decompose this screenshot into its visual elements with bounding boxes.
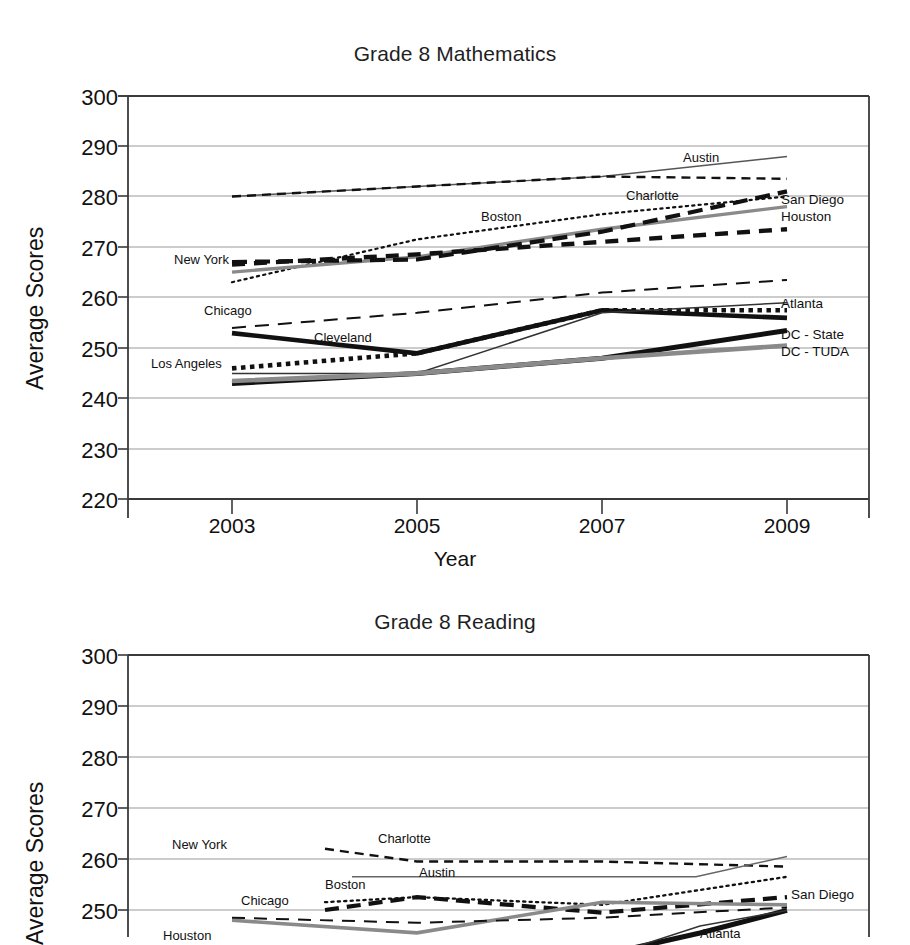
chart1-gridlines: [128, 146, 869, 449]
chart2-label-san-diego: San Diego: [791, 887, 854, 902]
chart1-series-chicago: [232, 280, 787, 328]
chart2-label-boston: Boston: [325, 877, 365, 892]
chart1-label-charlotte: Charlotte: [626, 188, 679, 203]
chart1-plot: [0, 0, 910, 600]
chart2-plot: [0, 600, 910, 937]
chart-grade8-reading: Grade 8 Reading Average Scores 300 290 2…: [0, 600, 910, 937]
chart1-label-boston: Boston: [481, 209, 521, 224]
chart1-label-dc-tuda: DC - TUDA: [781, 344, 849, 359]
chart2-label-new-york: New York: [172, 837, 227, 852]
chart1-label-cleveland: Cleveland: [314, 330, 372, 345]
chart2-label-austin: Austin: [419, 865, 455, 880]
chart2-axis-ticks: [118, 655, 128, 910]
chart1-label-chicago: Chicago: [204, 303, 252, 318]
chart1-series-charlotte: [232, 177, 787, 197]
chart2-label-charlotte: Charlotte: [378, 831, 431, 846]
chart2-label-chicago: Chicago: [241, 893, 289, 908]
chart1-label-austin: Austin: [683, 150, 719, 165]
chart1-label-houston: Houston: [781, 209, 831, 224]
chart1-label-dc-state: DC - State: [781, 327, 844, 342]
chart2-series-charlotte: [325, 849, 787, 867]
chart1-label-los-angeles: Los Angeles: [151, 356, 222, 371]
chart2-label-houston: Houston: [163, 928, 211, 943]
chart1-label-atlanta: Atlanta: [781, 296, 823, 311]
chart2-gridlines: [128, 706, 869, 910]
chart2-label-atlanta: Atlanta: [700, 926, 740, 941]
chart1-label-new-york: New York: [174, 252, 229, 267]
chart2-axes-frame: [128, 655, 869, 937]
chart1-label-san-diego: San Diego: [781, 192, 844, 207]
chart-grade8-mathematics: Grade 8 Mathematics Average Scores Year …: [0, 0, 910, 600]
